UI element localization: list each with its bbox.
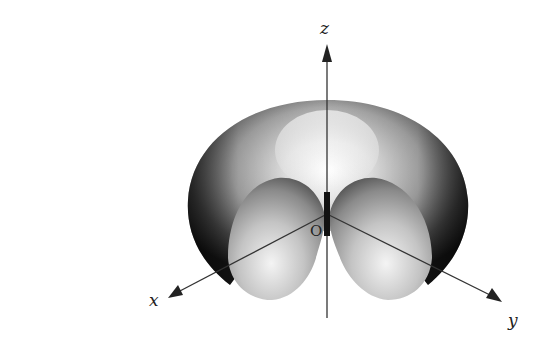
z-arrow-icon xyxy=(322,44,332,62)
diagram-canvas: z x y O xyxy=(0,0,540,341)
origin-label: O xyxy=(310,224,322,239)
y-arrow-icon xyxy=(486,288,502,302)
center-rod xyxy=(324,192,330,236)
y-axis-label: y xyxy=(508,312,518,329)
z-axis-label: z xyxy=(320,20,329,37)
x-arrow-icon xyxy=(168,285,183,298)
x-axis-label: x xyxy=(149,292,159,309)
torus-figure xyxy=(0,0,540,341)
